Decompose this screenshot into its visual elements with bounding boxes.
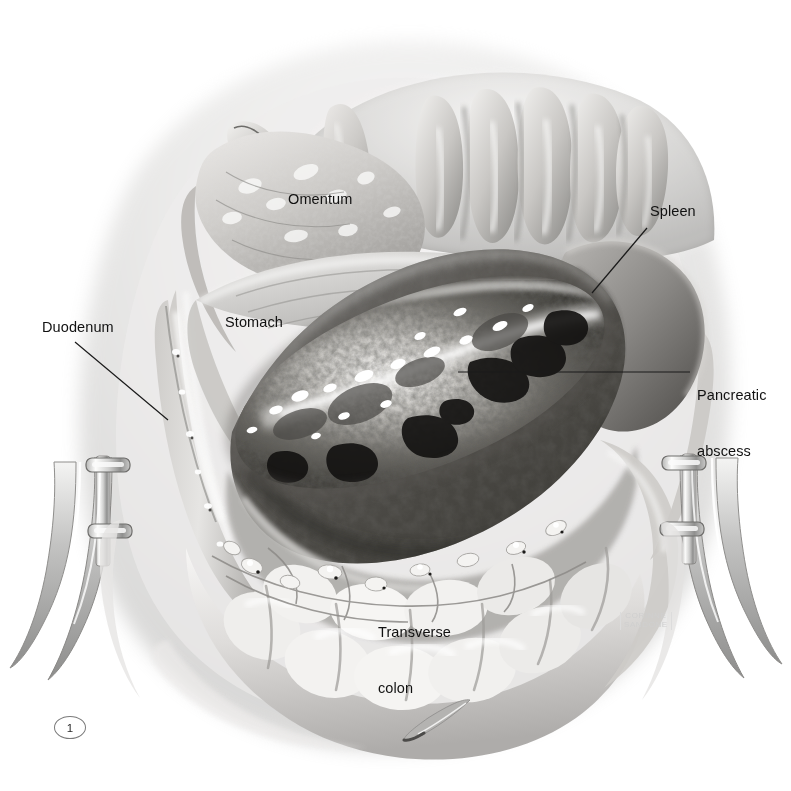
artist-signature: CORINNE SANDONE	[620, 612, 672, 630]
label-pancreatic-abscess: Pancreatic abscess	[697, 349, 767, 497]
figure-number-badge: 1	[54, 716, 86, 739]
label-transverse-colon: Transverse colon	[378, 586, 451, 734]
label-pancreatic-line1: Pancreatic	[697, 386, 767, 405]
label-pancreatic-line2: abscess	[697, 442, 767, 461]
label-spleen: Spleen	[650, 202, 696, 221]
label-stomach: Stomach	[225, 313, 283, 332]
figure-number: 1	[67, 722, 73, 734]
label-transverse-line1: Transverse	[378, 623, 451, 642]
label-omentum: Omentum	[288, 190, 352, 209]
left-clamp-upper[interactable]	[86, 458, 130, 472]
label-duodenum: Duodenum	[42, 318, 114, 337]
signature-line2: SANDONE	[624, 621, 668, 630]
label-transverse-line2: colon	[378, 679, 451, 698]
medical-figure: Omentum Spleen Duodenum Stomach Pancreat…	[0, 0, 791, 791]
